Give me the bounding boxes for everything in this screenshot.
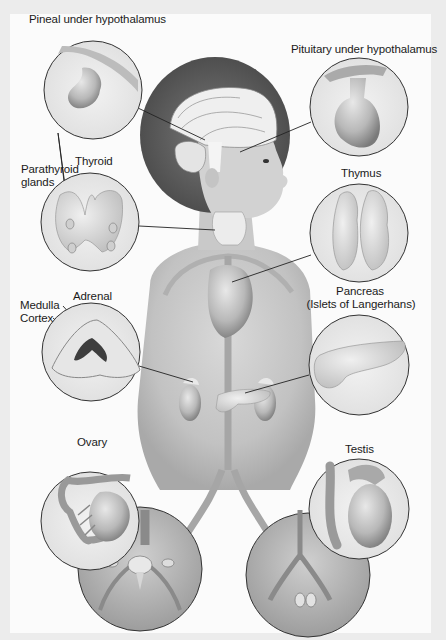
body-figure (138, 57, 316, 545)
cortex-label: Cortex (20, 312, 53, 325)
ovary-label: Ovary (77, 436, 107, 449)
parathyroid-label-line2: glands (21, 176, 54, 189)
thymus-inset (310, 184, 408, 282)
testis-label: Testis (345, 443, 374, 456)
thyroid-label: Thyroid (75, 155, 113, 168)
medulla-label: Medulla (20, 299, 60, 312)
pineal-label: Pineal under hypothalamus (29, 13, 166, 26)
pancreas-label-line2: (Islets of Langerhans) (291, 298, 431, 311)
pancreas-label-line1: Pancreas (310, 285, 410, 298)
testis-inset (309, 459, 409, 559)
endocrine-illustration (0, 0, 446, 640)
parathyroid-label-line1: Parathyroid (21, 163, 79, 176)
pancreas-inset (309, 315, 409, 415)
pituitary-label: Pituitary under hypothalamus (291, 43, 437, 56)
thyroid-inset (41, 173, 139, 271)
ovary-inset (41, 472, 139, 570)
pituitary-inset (310, 58, 408, 156)
pineal-inset (44, 41, 142, 139)
adrenal-label: Adrenal (73, 290, 112, 303)
adrenal-inset (42, 303, 140, 401)
thymus-label: Thymus (341, 167, 381, 180)
